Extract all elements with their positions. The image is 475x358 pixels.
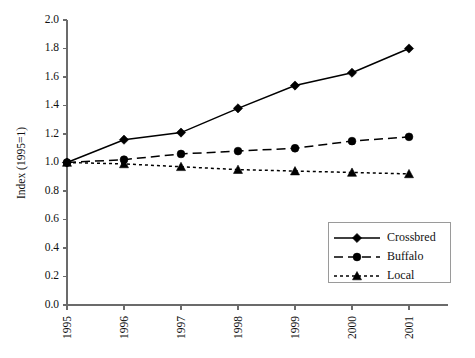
y-tick-label: 1.0 bbox=[45, 155, 60, 167]
series-buffalo bbox=[63, 133, 413, 166]
data-point-circle bbox=[348, 137, 356, 145]
y-axis: 0.00.20.40.60.81.01.21.41.61.82.0 Index … bbox=[15, 13, 67, 310]
series-local bbox=[63, 158, 414, 178]
series-layer bbox=[62, 44, 413, 178]
legend-label: Buffalo bbox=[387, 249, 423, 263]
data-point-diamond bbox=[233, 104, 242, 113]
legend-label: Local bbox=[387, 268, 415, 282]
y-tick-label: 1.4 bbox=[45, 98, 60, 110]
y-tick-label: 0.8 bbox=[45, 184, 60, 196]
y-tick-label: 1.6 bbox=[45, 70, 60, 82]
y-tick-label: 0.0 bbox=[45, 298, 60, 310]
y-tick-label: 0.4 bbox=[45, 241, 60, 253]
data-point-diamond bbox=[347, 68, 356, 77]
x-tick-label: 1996 bbox=[118, 316, 130, 339]
x-axis-tick-labels: 1995199619971998199920002001 bbox=[61, 316, 415, 339]
data-point-diamond bbox=[176, 128, 185, 137]
legend-label: Crossbred bbox=[387, 230, 436, 244]
data-point-diamond bbox=[119, 135, 128, 144]
y-tick-label: 1.2 bbox=[45, 127, 60, 139]
data-point-triangle bbox=[291, 167, 300, 175]
y-axis-tick-labels: 0.00.20.40.60.81.01.21.41.61.82.0 bbox=[45, 13, 60, 310]
line-chart: 0.00.20.40.60.81.01.21.41.61.82.0 Index … bbox=[0, 0, 475, 358]
data-point-circle bbox=[177, 150, 185, 158]
x-tick-label: 1999 bbox=[289, 316, 301, 339]
x-tick-label: 1995 bbox=[61, 316, 73, 339]
x-axis-ticks bbox=[67, 305, 409, 310]
data-point-diamond bbox=[290, 81, 299, 90]
data-point-circle bbox=[234, 147, 242, 155]
data-point-circle bbox=[405, 133, 413, 141]
x-tick-label: 2000 bbox=[346, 316, 358, 339]
data-point-circle bbox=[353, 253, 361, 261]
data-point-triangle bbox=[405, 169, 414, 177]
chart-legend: CrossbredBuffaloLocal bbox=[328, 222, 450, 282]
x-tick-label: 1997 bbox=[175, 316, 187, 339]
y-tick-label: 0.6 bbox=[45, 212, 60, 224]
y-axis-title: Index (1995=1) bbox=[15, 127, 28, 199]
data-point-diamond bbox=[404, 44, 413, 53]
y-tick-label: 1.8 bbox=[45, 41, 60, 53]
x-tick-label: 2001 bbox=[403, 316, 415, 339]
y-tick-label: 2.0 bbox=[45, 13, 60, 25]
x-tick-label: 1998 bbox=[232, 316, 244, 339]
y-tick-label: 0.2 bbox=[45, 269, 60, 281]
data-point-circle bbox=[291, 144, 299, 152]
chart-container: 0.00.20.40.60.81.01.21.41.61.82.0 Index … bbox=[0, 0, 475, 358]
x-axis: 1995199619971998199920002001 bbox=[61, 305, 448, 339]
